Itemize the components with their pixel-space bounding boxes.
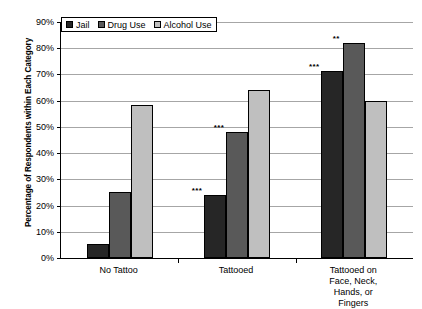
y-axis-tick-mark	[57, 127, 61, 128]
legend-label: Jail	[76, 20, 90, 30]
y-axis-tick-label: 10%	[14, 227, 54, 237]
significance-marker: **	[333, 35, 340, 43]
bar	[343, 43, 365, 258]
legend-swatch-icon	[154, 21, 161, 28]
legend-swatch-icon	[98, 21, 105, 28]
y-axis-tick-label: 30%	[14, 174, 54, 184]
legend-label: Alcohol Use	[164, 20, 212, 30]
x-axis-separator	[296, 258, 297, 263]
y-axis-tick-label: 80%	[14, 43, 54, 53]
chart-legend: JailDrug UseAlcohol Use	[61, 17, 217, 32]
significance-marker: ***	[192, 187, 203, 195]
x-axis-separator	[178, 258, 179, 263]
y-axis-tick-mark	[57, 206, 61, 207]
plot-area: ***********	[60, 22, 413, 259]
bar	[87, 244, 109, 258]
x-axis-category-label: No Tattoo	[99, 265, 137, 276]
bar	[131, 105, 153, 258]
y-axis-tick-mark	[57, 153, 61, 154]
bar	[321, 71, 343, 258]
legend-label: Drug Use	[108, 20, 146, 30]
bar	[248, 90, 270, 258]
y-axis-tick-mark	[57, 179, 61, 180]
significance-marker: ***	[309, 63, 320, 71]
y-axis-tick-label: 90%	[14, 17, 54, 27]
legend-item[interactable]: Jail	[66, 20, 90, 30]
y-axis-tick-label: 0%	[14, 253, 54, 263]
y-axis-tick-mark	[57, 74, 61, 75]
legend-item[interactable]: Alcohol Use	[154, 20, 212, 30]
y-axis-tick-mark	[57, 101, 61, 102]
y-axis-tick-label: 50%	[14, 122, 54, 132]
bar	[226, 132, 248, 258]
bar	[109, 192, 131, 258]
y-axis-tick-mark	[57, 48, 61, 49]
y-axis-tick-mark	[57, 258, 61, 259]
legend-item[interactable]: Drug Use	[98, 20, 146, 30]
y-axis-tick-label: 60%	[14, 96, 54, 106]
y-axis-tick-label: 20%	[14, 201, 54, 211]
bar	[365, 101, 387, 258]
y-axis-tick-label: 70%	[14, 69, 54, 79]
legend-swatch-icon	[66, 21, 73, 28]
bar	[204, 195, 226, 258]
x-axis-category-label: Tattooed on Face, Neck, Hands, or Finger…	[319, 265, 388, 309]
y-axis-tick-label: 40%	[14, 148, 54, 158]
y-axis-tick-mark	[57, 232, 61, 233]
significance-marker: ***	[214, 124, 225, 132]
x-axis-category-label: Tattooed	[219, 265, 254, 276]
